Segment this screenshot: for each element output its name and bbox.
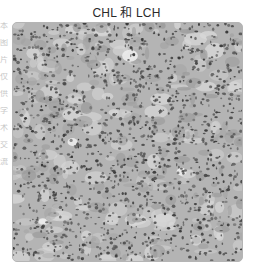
- tissue-texture: [13, 23, 242, 261]
- side-text-char: 图: [0, 39, 9, 47]
- figure-title: CHL 和 LCH: [0, 3, 253, 20]
- side-text-char: 术: [0, 124, 9, 132]
- side-text-char: 片: [0, 56, 9, 64]
- histology-micrograph: [12, 22, 243, 262]
- side-text-char: 供: [0, 90, 9, 98]
- side-text-char: 本: [0, 22, 9, 30]
- side-text-char: 交: [0, 141, 9, 149]
- side-text-char: 学: [0, 107, 9, 115]
- side-text-char: 流: [0, 158, 9, 166]
- figure-page: CHL 和 LCH 本图片仅供学术交流: [0, 0, 253, 274]
- side-text-char: 仅: [0, 73, 9, 81]
- side-watermark-text: 本图片仅供学术交流: [0, 22, 9, 166]
